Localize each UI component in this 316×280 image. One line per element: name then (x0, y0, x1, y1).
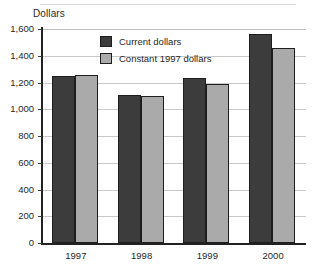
bar-1997-current-dollars (52, 76, 75, 243)
bar-1999-current-dollars (183, 78, 206, 243)
y-axis-tick (38, 136, 42, 137)
y-axis-tick-label: 400 (0, 184, 34, 195)
chart-legend: Current dollars Constant 1997 dollars (100, 36, 211, 64)
gridline (43, 29, 306, 30)
y-axis-tick (38, 83, 42, 84)
bar-chart-figure: Dollars 02004006008001,0001,2001,4001,60… (0, 0, 316, 280)
bar-1998-current-dollars (118, 95, 141, 243)
y-axis-tick (38, 109, 42, 110)
bar-2000-current-dollars (249, 34, 272, 243)
x-axis-label-1997: 1997 (46, 250, 106, 261)
y-axis-tick-label: 0 (0, 237, 34, 248)
legend-swatch-current-dollars (100, 36, 112, 47)
y-axis-tick (38, 243, 42, 244)
bar-1999-constant-1997-dollars (206, 84, 229, 243)
bar-1997-constant-1997-dollars (75, 75, 98, 243)
y-axis-tick (38, 163, 42, 164)
y-axis-tick-label: 1,600 (0, 23, 34, 34)
legend-label-constant-1997-dollars: Constant 1997 dollars (119, 53, 211, 64)
legend-item-constant-1997-dollars: Constant 1997 dollars (100, 53, 211, 64)
y-axis-tick-label: 600 (0, 157, 34, 168)
legend-label-current-dollars: Current dollars (119, 36, 181, 47)
bar-1998-constant-1997-dollars (141, 96, 164, 243)
y-axis-tick-label: 1,000 (0, 103, 34, 114)
y-axis-tick-label: 800 (0, 130, 34, 141)
y-axis-tick (38, 190, 42, 191)
x-axis-label-1998: 1998 (112, 250, 172, 261)
x-axis-label-1999: 1999 (177, 250, 237, 261)
legend-item-current-dollars: Current dollars (100, 36, 211, 47)
y-axis-tick (38, 29, 42, 30)
legend-swatch-constant-1997-dollars (100, 53, 112, 64)
y-axis-title: Dollars (33, 8, 65, 19)
bar-2000-constant-1997-dollars (272, 48, 295, 243)
x-axis-line (41, 243, 306, 245)
y-axis-tick-label: 1,200 (0, 77, 34, 88)
y-axis-tick-label: 1,400 (0, 50, 34, 61)
scan-artifact-line (40, 4, 296, 5)
y-axis-tick (38, 56, 42, 57)
x-axis-label-2000: 2000 (243, 250, 303, 261)
y-axis-tick (38, 216, 42, 217)
y-axis-tick-label: 200 (0, 210, 34, 221)
